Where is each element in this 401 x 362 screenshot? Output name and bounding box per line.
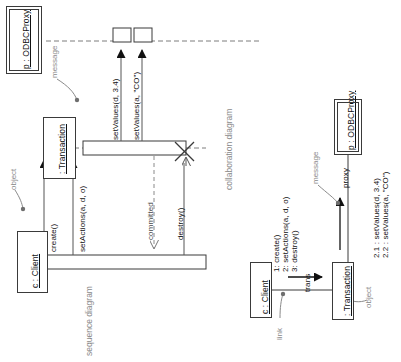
collab-transaction-object-box[interactable]: : Transaction	[332, 262, 354, 320]
collab-link-annotation: link	[275, 328, 284, 340]
collab-message-annotation: message	[311, 152, 320, 184]
object-annotation-leader	[15, 190, 23, 209]
collaboration-diagram-caption: collaboration diagram	[224, 109, 234, 190]
sequence-message-annotation: message	[50, 46, 59, 78]
sequence-transaction-object-box[interactable]: : Transaction	[43, 117, 76, 179]
collab-role-proxy: proxy	[341, 168, 350, 188]
link-annotation-leader	[280, 294, 283, 318]
sequence-message-setvalues2-label: setValues(a, "CO")	[132, 72, 141, 140]
collab-message-annotation-leader	[318, 185, 338, 203]
sequence-proxy-label: p : ODBCProxy	[21, 10, 31, 69]
sequence-client-object-box[interactable]: c : Client	[17, 231, 48, 293]
sequence-message-committed-label: committed	[146, 202, 155, 240]
collab-message-2-1: 2.1 : setValues(d, 3.4)	[372, 178, 381, 258]
collab-message-1: 1: create()	[272, 234, 281, 272]
proxy-activation-1	[113, 28, 131, 42]
sequence-diagram-caption: sequence diagram	[84, 286, 94, 356]
sequence-transaction-label: : Transaction	[57, 124, 67, 174]
sequence-message-create-label: create()	[49, 224, 58, 252]
collab-object-annotation: object	[364, 287, 373, 308]
sequence-object-annotation: object	[9, 169, 18, 190]
transaction-activation-bar	[83, 141, 186, 155]
collab-transaction-label: : Transaction	[342, 266, 352, 316]
sequence-proxy-object-box[interactable]: p : ODBCProxy	[6, 6, 42, 74]
collab-proxy-label: p : ODBCProxy	[346, 91, 356, 150]
sequence-message-setactions-label: setActions(a, d, o)	[78, 186, 87, 252]
collab-message-2: 2: setActions(a, d, o)	[281, 196, 290, 272]
collab-proxy-object-box[interactable]: p : ODBCProxy	[334, 99, 362, 155]
collab-client-label: c : Client	[260, 280, 270, 314]
collab-client-object-box[interactable]: c : Client	[250, 262, 272, 318]
uml-figure-canvas: p : ODBCProxy : Transaction c : Client c…	[0, 0, 401, 362]
client-activation-bar	[31, 255, 206, 269]
collab-role-trans: trans	[303, 274, 312, 292]
proxy-activation-2	[134, 28, 152, 42]
collab-message-3: 3: destroy()	[290, 230, 299, 272]
sequence-client-label: c : Client	[30, 254, 40, 288]
sequence-message-setvalues1-label: setValues(d, 3.4)	[111, 78, 120, 140]
collab-message-2-2: 2.2 : setValues(a, "CO")	[381, 171, 390, 258]
sequence-message-destroy-label: destroy()	[176, 208, 185, 240]
message-annotation-leader	[57, 79, 77, 100]
